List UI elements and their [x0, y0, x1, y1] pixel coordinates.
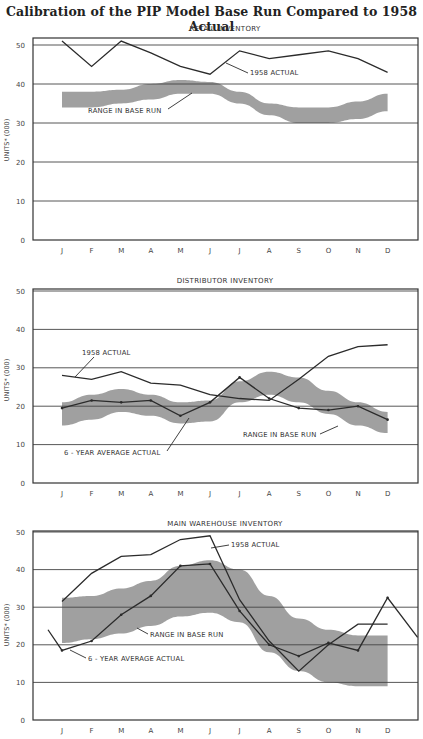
y-tick-label: 10 — [16, 679, 25, 687]
y-tick-label: 30 — [16, 604, 25, 612]
x-tick-label: S — [297, 247, 302, 255]
data-point — [150, 399, 153, 402]
x-tick-label: M — [177, 247, 183, 255]
x-tick-label: J — [60, 247, 63, 255]
data-point — [268, 644, 271, 647]
x-tick-label: J — [238, 727, 241, 735]
charts-canvas: RETAIL INVENTORY01020304050UNITS* (000)J… — [0, 0, 423, 739]
x-tick-label: A — [148, 727, 153, 735]
x-tick-label: F — [90, 727, 94, 735]
y-tick-label: 30 — [16, 120, 25, 128]
y-tick-label: 40 — [16, 326, 25, 334]
x-tick-label: J — [208, 727, 211, 735]
y-tick-label: 20 — [16, 159, 25, 167]
annotation-leader — [320, 426, 338, 434]
data-point — [209, 563, 212, 566]
x-tick-label: M — [177, 727, 183, 735]
annotation-label: RANGE IN BASE RUN — [243, 431, 316, 439]
data-point — [327, 642, 330, 645]
data-point — [179, 565, 182, 568]
x-tick-label: D — [385, 247, 390, 255]
x-tick-label: N — [355, 490, 360, 498]
x-tick-label: D — [385, 727, 390, 735]
x-tick-label: M — [177, 490, 183, 498]
data-point — [386, 597, 389, 600]
x-tick-label: M — [118, 727, 124, 735]
data-point — [120, 401, 123, 404]
plot-frame — [33, 38, 418, 240]
panel-title: DISTRIBUTOR INVENTORY — [177, 277, 274, 285]
range-band — [62, 372, 388, 433]
y-tick-label: 40 — [16, 81, 25, 89]
x-tick-label: M — [118, 247, 124, 255]
data-point — [209, 401, 212, 404]
annotation-label: 1958 ACTUAL — [231, 541, 280, 549]
y-axis-label: UNITS* (000) — [3, 359, 11, 401]
x-tick-label: J — [238, 490, 241, 498]
annotation-label: 6 - YEAR AVERAGE ACTUAL — [64, 449, 160, 457]
data-point — [238, 610, 241, 613]
data-point — [357, 649, 360, 652]
x-tick-label: A — [267, 727, 272, 735]
panel-title: MAIN WAREHOUSE INVENTORY — [167, 520, 283, 528]
panel-title: RETAIL INVENTORY — [189, 25, 260, 33]
data-point — [327, 409, 330, 412]
chart-panel-1: RETAIL INVENTORY01020304050UNITS* (000)J… — [3, 25, 418, 255]
annotation-leader — [168, 93, 192, 109]
data-point — [298, 407, 301, 410]
data-point — [179, 415, 182, 418]
data-point — [386, 418, 389, 421]
annotation-label: RANGE IN BASE RUN — [150, 631, 223, 639]
x-tick-label: J — [208, 490, 211, 498]
data-point — [61, 407, 64, 410]
x-tick-label: J — [238, 247, 241, 255]
x-tick-label: J — [208, 247, 211, 255]
annotation-leader — [70, 650, 86, 658]
y-tick-label: 50 — [16, 529, 25, 537]
data-point — [268, 397, 271, 400]
y-tick-label: 10 — [16, 198, 25, 206]
x-tick-label: A — [267, 247, 272, 255]
annotation-label: 1958 ACTUAL — [250, 69, 299, 77]
x-tick-label: F — [90, 247, 94, 255]
chart-panel-3: MAIN WAREHOUSE INVENTORY01020304050UNITS… — [3, 520, 418, 735]
y-tick-label: 50 — [16, 288, 25, 296]
range-band — [62, 80, 388, 123]
data-point — [150, 595, 153, 598]
y-tick-label: 30 — [16, 364, 25, 372]
y-axis-label: UNITS* (000) — [3, 119, 11, 161]
x-tick-label: A — [148, 247, 153, 255]
annotation-leader — [75, 357, 94, 377]
x-tick-label: S — [297, 490, 302, 498]
data-point — [120, 613, 123, 616]
x-tick-label: D — [385, 490, 390, 498]
x-tick-label: M — [118, 490, 124, 498]
data-point — [90, 640, 93, 643]
x-tick-label: F — [90, 490, 94, 498]
y-tick-label: 0 — [21, 480, 25, 488]
x-tick-label: J — [60, 490, 63, 498]
x-tick-label: O — [326, 247, 332, 255]
data-point — [298, 655, 301, 658]
y-tick-label: 50 — [16, 42, 25, 50]
annotation-leader — [211, 545, 229, 548]
series-line-1958-actual — [62, 41, 388, 74]
annotation-label: 6 - YEAR AVERAGE ACTUAL — [88, 655, 184, 663]
y-tick-label: 0 — [21, 717, 25, 725]
x-tick-label: N — [355, 247, 360, 255]
annotation-label: RANGE IN BASE RUN — [88, 107, 161, 115]
annotation-leader — [137, 628, 148, 634]
y-tick-label: 20 — [16, 641, 25, 649]
y-tick-label: 20 — [16, 403, 25, 411]
y-axis-label: UNITS* (000) — [3, 604, 11, 646]
data-point — [90, 399, 93, 402]
x-tick-label: S — [297, 727, 302, 735]
y-tick-label: 0 — [21, 237, 25, 245]
x-tick-label: O — [326, 727, 332, 735]
annotation-leader — [226, 63, 248, 73]
data-point — [357, 405, 360, 408]
y-tick-label: 40 — [16, 566, 25, 574]
x-tick-label: J — [60, 727, 63, 735]
data-point — [238, 376, 241, 379]
x-tick-label: A — [267, 490, 272, 498]
